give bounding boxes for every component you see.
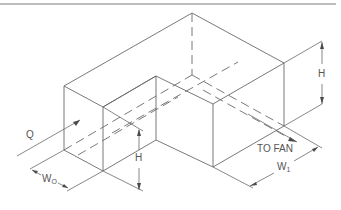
height-label-left: H (135, 152, 142, 163)
outlet-label: TO FAN (257, 143, 293, 154)
box-outline (64, 13, 284, 171)
flow-label: Q (26, 129, 34, 140)
height-dimension-left (103, 107, 143, 191)
height-dimension-right (284, 41, 324, 126)
outflow-arrow (248, 114, 297, 142)
inlet-width-dimension (30, 150, 103, 191)
hidden-lines (64, 13, 287, 155)
isometric-duct-diagram: Q TO FAN H H WO (0, 0, 341, 210)
inlet-width-label: WO (42, 173, 57, 185)
height-label-right: H (318, 68, 325, 79)
outlet-width-label: W1 (277, 161, 290, 173)
